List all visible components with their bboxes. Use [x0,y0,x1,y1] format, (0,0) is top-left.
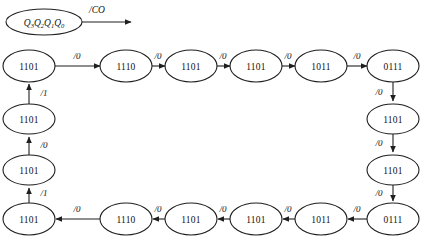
top-row-group: 1101 1110 1101 1101 1011 0111 /0 /0 /0 /… [3,50,419,82]
transition-label: /0 [283,204,292,214]
state-label: 1110 [116,215,135,225]
transition-label: /0 [39,140,48,150]
transition-label: /0 [374,138,383,148]
transition-label: /1 [39,88,47,98]
transition-label: /0 [283,51,292,61]
state-label: 1101 [181,62,200,72]
state-label: 1101 [181,215,200,225]
transition-label: /1 [39,188,47,198]
state-label: 1101 [19,215,38,225]
state-diagram: Q3Q2Q1Q0 /CO 1101 1110 1101 1101 1011 01… [0,0,425,241]
transition-label: /0 [352,204,361,214]
state-label: 1101 [19,115,38,125]
bottom-row-group: 1101 1110 1101 1101 1011 0111 /0 /0 /0 /… [3,203,419,235]
transition-label: /0 [153,51,162,61]
transition-label: /0 [374,188,383,198]
state-label: 1101 [383,115,402,125]
state-label: 1011 [311,215,330,225]
transition-label: /0 [374,87,383,97]
register-label: Q3Q2Q1Q0 [24,18,65,29]
state-label: 0111 [383,62,402,72]
state-label: 0111 [383,215,402,225]
state-label: 1101 [19,62,38,72]
state-label: 1101 [19,166,38,176]
state-label: 1101 [246,62,265,72]
transition-label: /0 [218,51,227,61]
right-column-group: 1101 1101 /0 /0 /0 [367,82,419,201]
carry-out-label: /CO [88,5,105,15]
state-label: 1101 [383,166,402,176]
state-label: 1011 [311,62,330,72]
transition-label: /0 [352,51,361,61]
left-column-group: 1101 1101 /1 /0 /1 [3,84,55,203]
state-label: 1110 [116,62,135,72]
register-group: Q3Q2Q1Q0 /CO [6,5,131,35]
transition-label: /0 [218,204,227,214]
transition-label: /0 [153,204,162,214]
state-label: 1101 [246,215,265,225]
transition-label: /0 [72,51,81,61]
fsm-canvas: Q3Q2Q1Q0 /CO 1101 1110 1101 1101 1011 01… [0,0,425,241]
transition-label: /0 [72,204,81,214]
